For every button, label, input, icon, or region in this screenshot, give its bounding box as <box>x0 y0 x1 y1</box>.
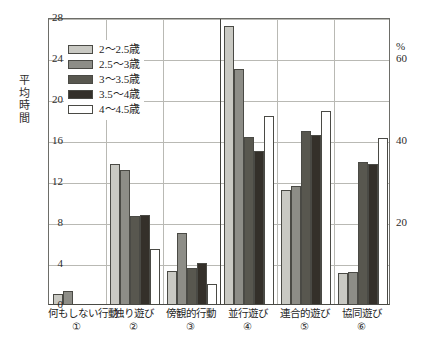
bar-4-5 <box>264 116 274 304</box>
legend-label: 2.5～3歳 <box>99 59 140 70</box>
bar-group <box>338 19 388 304</box>
chart-root: 平均時間 % 2～2.5歳2.5～3歳3～3.5歳3.5～4歳4～4.5歳 何も… <box>0 0 426 353</box>
bar-4-1 <box>224 26 234 304</box>
bar-5-1 <box>281 190 291 304</box>
legend: 2～2.5歳2.5～3歳3～3.5歳3.5～4歳4～4.5歳 <box>64 40 144 120</box>
y-axis-tick-label: 20 <box>41 94 63 105</box>
x-axis-category-labels: 何もしない行動①独り遊び②傍観的行動③並行遊び④連合的遊び⑤協同遊び⑥ <box>48 307 390 351</box>
legend-label: 3～3.5歳 <box>99 74 140 85</box>
legend-swatch-icon <box>68 90 93 99</box>
group-divider <box>334 19 335 304</box>
bar-4-3 <box>244 137 254 304</box>
legend-swatch-icon <box>68 105 93 114</box>
bar-3-4 <box>197 263 207 304</box>
legend-item[interactable]: 2～2.5歳 <box>68 42 140 57</box>
y-axis-tick-label: 8 <box>41 217 63 228</box>
bar-2-4 <box>140 215 150 304</box>
bar-3-1 <box>167 271 177 304</box>
legend-swatch-icon <box>68 60 93 69</box>
bar-2-2 <box>120 170 130 304</box>
bar-6-4 <box>368 164 378 304</box>
y-axis-tick-label: 0 <box>41 299 63 310</box>
category-name: 連合的遊び <box>280 308 330 319</box>
bar-6-3 <box>358 162 368 304</box>
right-axis-tick-label: 40 <box>396 135 422 146</box>
x-axis-category-label: 傍観的行動③ <box>162 307 219 334</box>
y-axis-title-char: 平 <box>17 74 32 87</box>
legend-label: 4～4.5歳 <box>99 104 140 115</box>
legend-item[interactable]: 3～3.5歳 <box>68 72 140 87</box>
legend-label: 3.5～4歳 <box>99 89 140 100</box>
right-axis-unit: % <box>396 40 405 52</box>
bar-3-2 <box>177 233 187 304</box>
y-axis-tick-label: 24 <box>41 53 63 64</box>
legend-swatch-icon <box>68 75 93 84</box>
x-axis-category-label: 並行遊び④ <box>219 307 276 334</box>
bar-2-5 <box>150 249 160 304</box>
bar-5-2 <box>291 186 301 304</box>
category-name: 傍観的行動 <box>166 308 216 319</box>
bar-3-5 <box>207 284 217 305</box>
group-divider <box>163 19 164 304</box>
group-divider <box>277 19 278 304</box>
bar-3-3 <box>187 268 197 304</box>
category-number: ① <box>48 321 105 334</box>
bar-5-5 <box>321 111 331 304</box>
y-axis-tick-label: 16 <box>41 135 63 146</box>
bar-5-3 <box>301 131 311 304</box>
y-axis-tick-label: 12 <box>41 176 63 187</box>
bar-4-4 <box>254 151 264 304</box>
y-axis-title-char: 間 <box>17 112 32 125</box>
right-axis-tick-label: 60 <box>396 53 422 64</box>
bar-group <box>281 19 331 304</box>
y-axis-title: 平均時間 <box>17 74 32 125</box>
right-axis-tick-label: 20 <box>396 217 422 228</box>
y-axis-tick-label: 4 <box>41 258 63 269</box>
bar-4-2 <box>234 69 244 304</box>
x-axis-category-label: 何もしない行動① <box>48 307 105 334</box>
category-name: 独り遊び <box>114 308 154 319</box>
legend-item[interactable]: 3.5～4歳 <box>68 87 140 102</box>
category-number: ⑤ <box>276 321 333 334</box>
bar-2-3 <box>130 216 140 304</box>
y-axis-title-char: 均 <box>17 87 32 100</box>
bar-6-1 <box>338 273 348 304</box>
legend-label: 2～2.5歳 <box>99 44 140 55</box>
legend-swatch-icon <box>68 45 93 54</box>
category-name: 協同遊び <box>342 308 382 319</box>
legend-item[interactable]: 2.5～3歳 <box>68 57 140 72</box>
x-axis-category-label: 独り遊び② <box>105 307 162 334</box>
bar-6-2 <box>348 272 358 304</box>
category-number: ⑥ <box>333 321 390 334</box>
group-divider-major <box>220 19 221 304</box>
category-number: ② <box>105 321 162 334</box>
category-name: 並行遊び <box>228 308 268 319</box>
bar-6-5 <box>378 138 388 304</box>
x-axis-category-label: 連合的遊び⑤ <box>276 307 333 334</box>
bar-2-1 <box>110 164 120 304</box>
category-number: ③ <box>162 321 219 334</box>
category-number: ④ <box>219 321 276 334</box>
bar-group <box>167 19 217 304</box>
y-axis-tick-label: 28 <box>41 12 63 23</box>
x-axis-category-label: 協同遊び⑥ <box>333 307 390 334</box>
legend-item[interactable]: 4～4.5歳 <box>68 102 140 117</box>
bar-group <box>224 19 274 304</box>
y-axis-title-char: 時 <box>17 99 32 112</box>
bar-5-4 <box>311 135 321 304</box>
bar-1-2 <box>63 291 73 304</box>
